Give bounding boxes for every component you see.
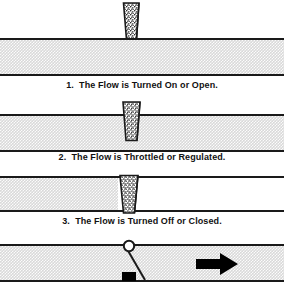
fluid-upstream (0, 178, 118, 210)
caption-open: 1. The Flow is Turned On or Open. (0, 80, 284, 90)
valve-flow-diagram: 1. The Flow is Turned On or Open. (0, 0, 284, 286)
panel-schematic (0, 240, 284, 286)
pipe-open (0, 38, 284, 76)
panel-open: 1. The Flow is Turned On or Open. (0, 0, 284, 96)
valve-block (122, 272, 140, 284)
pivot-circle-icon (120, 237, 138, 255)
panel-closed: 3. The Flow is Turned Off or Closed. (0, 168, 284, 236)
flow-direction-arrow-icon (196, 252, 242, 276)
gate-wedge-closed (115, 174, 145, 216)
gate-wedge-throttled (118, 101, 146, 143)
panel-throttled: 2. The Flow is Throttled or Regulated. (0, 96, 284, 168)
caption-closed: 3. The Flow is Turned Off or Closed. (0, 216, 284, 226)
caption-throttled: 2. The Flow is Throttled or Regulated. (0, 152, 284, 162)
gate-wedge-open (118, 2, 146, 42)
